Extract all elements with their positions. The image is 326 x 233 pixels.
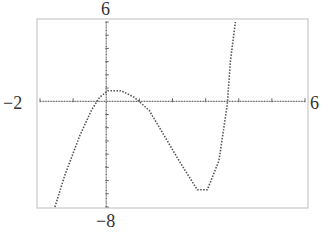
- function-curve: [55, 22, 236, 207]
- graph-plot: [0, 0, 326, 233]
- axes: [40, 22, 305, 207]
- axis-ticks: [40, 22, 305, 207]
- plot-frame: [37, 19, 308, 208]
